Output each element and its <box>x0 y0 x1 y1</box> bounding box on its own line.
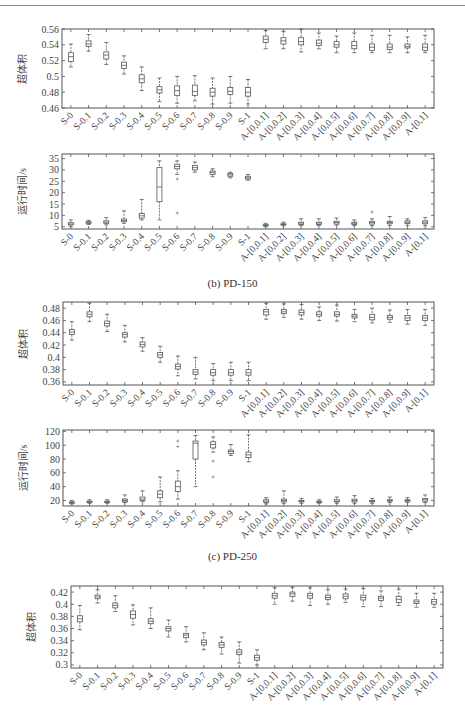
box-18 <box>396 589 401 605</box>
x-tick-label: S-0.8 <box>205 670 227 692</box>
box-20 <box>432 593 437 607</box>
box-10 <box>255 650 260 665</box>
box-17 <box>379 591 384 607</box>
box-8 <box>219 637 224 654</box>
y-axis-label: 超体积 <box>25 612 37 642</box>
y-tick-label: 0.42 <box>51 587 69 598</box>
x-tick-label: S-0.9 <box>222 670 244 692</box>
box-9 <box>237 642 242 663</box>
y-tick-label: 0.36 <box>51 623 69 634</box>
box-6 <box>184 627 189 642</box>
y-tick-label: 0.38 <box>51 611 69 622</box>
box-14 <box>325 590 330 605</box>
box-11 <box>272 588 277 604</box>
pd250-hypervolume-boxplot: 0.30.320.340.360.380.40.42超体积S-0S-0.1S-0… <box>0 0 465 717</box>
box-7 <box>201 633 206 650</box>
y-tick-label: 0.32 <box>51 647 69 658</box>
x-tick-label: S-0.2 <box>98 670 120 692</box>
x-tick-label: S-0.3 <box>116 670 138 692</box>
box-0 <box>77 605 82 629</box>
box-12 <box>290 587 295 601</box>
box-3 <box>131 605 136 625</box>
box-2 <box>113 596 118 612</box>
x-tick-label: S-0.7 <box>187 670 209 692</box>
x-tick-label: S-0.4 <box>134 670 156 692</box>
x-tick-label: S-0.1 <box>81 670 103 692</box>
y-tick-label: 0.4 <box>56 599 69 610</box>
box-13 <box>308 588 313 606</box>
y-tick-label: 0.34 <box>51 635 69 646</box>
box-16 <box>361 588 366 606</box>
box-5 <box>166 620 171 637</box>
box-4 <box>148 608 153 629</box>
y-tick-label: 0.3 <box>56 659 69 670</box>
box-15 <box>343 589 348 602</box>
box-19 <box>414 593 419 607</box>
x-tick-label: S-0.6 <box>169 670 191 692</box>
x-tick-label: S-0.5 <box>151 670 173 692</box>
box-1 <box>95 590 100 603</box>
